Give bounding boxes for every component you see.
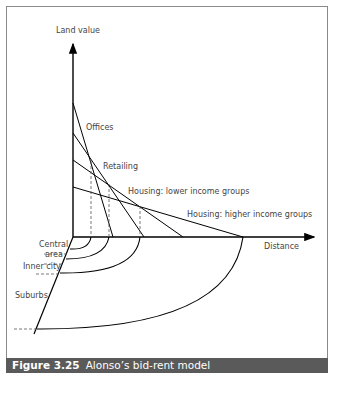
central-area-label-2: area [45,251,63,259]
central-area-arc [70,237,91,249]
offices-label: Offices [86,124,114,132]
figure-caption: Figure 3.25Alonso’s bid-rent model [6,358,328,373]
housing-higher-label: Housing: higher income groups [187,211,312,219]
inner-city-label: Inner city [23,263,61,271]
retail-arc [66,237,109,259]
housing-lower-line [73,160,183,237]
central-area-label-1: Central [39,241,68,249]
bid-rent-diagram [0,0,341,393]
retailing-label: Retailing [103,163,138,171]
housing-lower-label: Housing: lower income groups [128,188,249,196]
y-axis-label: Land value [56,27,100,35]
suburbs-label: Suburbs [15,292,48,300]
inner-city-arc [60,237,140,273]
x-axis-label: Distance [264,243,299,251]
figure-number: Figure 3.25 [12,359,80,371]
figure-title: Alonso’s bid-rent model [86,359,211,371]
